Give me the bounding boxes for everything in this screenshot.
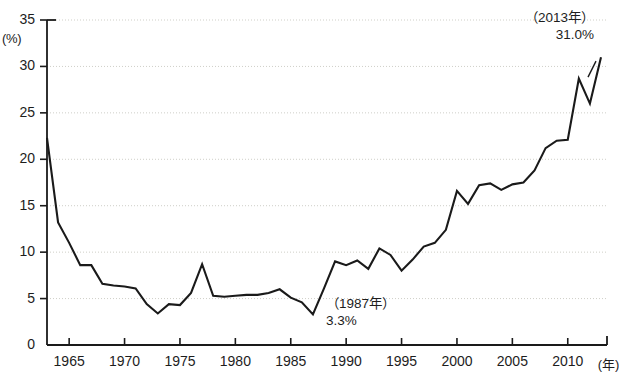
series-line-rate — [47, 57, 601, 314]
x-tick-label: 2010 — [542, 353, 594, 369]
annotation-peak-2013-value: 31.0% — [486, 27, 594, 44]
x-axis-ticks — [69, 338, 568, 345]
x-tick-label: 1980 — [209, 353, 261, 369]
y-tick-label: 10 — [0, 243, 35, 259]
annotation-peak-2013: （2013年） 31.0% — [486, 10, 594, 44]
y-tick-label: 30 — [0, 57, 35, 73]
gridlines — [47, 20, 607, 299]
x-tick-label: 1990 — [320, 353, 372, 369]
y-axis-ticks — [40, 20, 47, 299]
x-tick-label: 1985 — [265, 353, 317, 369]
x-tick-label: 1995 — [376, 353, 428, 369]
y-tick-label: 5 — [0, 290, 35, 306]
x-tick-label: 2005 — [486, 353, 538, 369]
y-axis-unit-label: (%) — [2, 31, 21, 46]
x-tick-label: 1965 — [43, 353, 95, 369]
annotation-peak-2013-year: （2013年） — [525, 10, 594, 25]
y-tick-label: 0 — [0, 336, 35, 352]
y-tick-label: 20 — [0, 150, 35, 166]
y-tick-label: 15 — [0, 197, 35, 213]
x-tick-label: 1970 — [99, 353, 151, 369]
annotation-trough-1987-value: 3.3% — [326, 313, 395, 330]
annotation-leader-lines — [588, 61, 596, 77]
annotation-trough-1987-year: （1987年） — [326, 296, 395, 311]
annotation-trough-1987: （1987年） 3.3% — [326, 296, 395, 330]
y-tick-label: 25 — [0, 104, 35, 120]
leader-line-2013 — [588, 61, 596, 77]
x-axis-unit-label: (年) — [598, 354, 619, 373]
y-tick-label: 35 — [0, 11, 35, 27]
x-tick-label: 1975 — [154, 353, 206, 369]
data-series-line — [47, 57, 601, 314]
x-tick-label: 2000 — [431, 353, 483, 369]
